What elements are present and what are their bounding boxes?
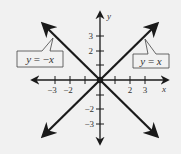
x-tick-label-minus-3: −3 xyxy=(47,85,57,95)
callout-label-right: y = x xyxy=(139,55,162,67)
origin-point xyxy=(97,77,103,83)
callout-y-equals-negative-x: y = −x xyxy=(17,38,63,67)
chart-svg: −3 −2 2 3 x 3 2 −2 −3 y y = −x y = x xyxy=(0,0,181,154)
y-axis-label: y xyxy=(106,11,111,21)
y-tick-label-3: 3 xyxy=(89,31,94,41)
x-axis-label: x xyxy=(161,84,166,94)
callout-label-left: y = −x xyxy=(25,53,54,65)
x-tick-label-2: 2 xyxy=(128,85,133,95)
x-tick-label-3: 3 xyxy=(143,85,148,95)
y-tick-label-minus-3: −3 xyxy=(84,119,94,129)
y-tick-label-minus-2: −2 xyxy=(84,104,94,114)
coordinate-plane-chart: −3 −2 2 3 x 3 2 −2 −3 y y = −x y = x xyxy=(0,0,181,154)
y-tick-label-2: 2 xyxy=(89,46,94,56)
x-tick-label-minus-2: −2 xyxy=(63,85,73,95)
